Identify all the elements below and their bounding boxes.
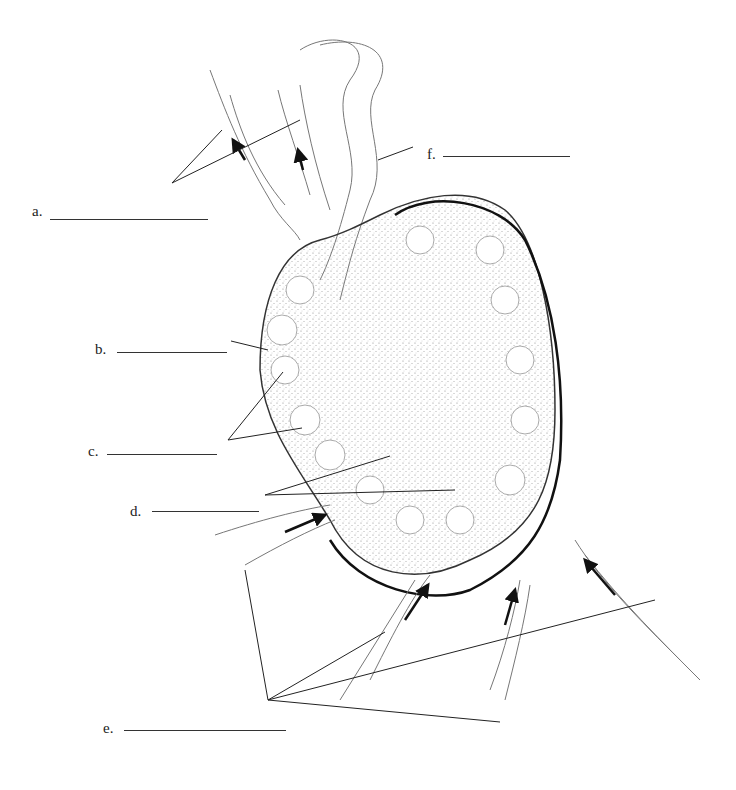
label-d-letter: d.: [130, 504, 141, 519]
answer-blank-f[interactable]: [443, 156, 570, 157]
label-b-letter: b.: [95, 342, 106, 357]
label-a-letter: a.: [32, 204, 42, 219]
label-e-letter: e.: [103, 721, 113, 736]
answer-blank-b[interactable]: [117, 352, 227, 353]
answer-blank-a[interactable]: [50, 219, 208, 220]
lymph-node-illustration: [0, 0, 736, 790]
label-f-letter: f.: [427, 147, 436, 162]
answer-blank-c[interactable]: [107, 454, 217, 455]
answer-blank-e[interactable]: [124, 730, 286, 731]
label-c-letter: c.: [88, 444, 98, 459]
answer-blank-d[interactable]: [152, 511, 259, 512]
